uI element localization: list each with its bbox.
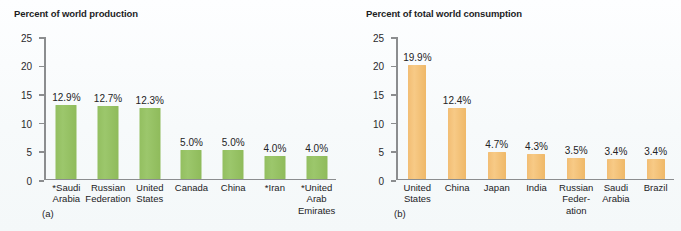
bar bbox=[306, 156, 327, 179]
y-tick-b-5: 5 bbox=[391, 151, 396, 153]
x-category-label: China bbox=[445, 182, 470, 193]
bar-value-label: 3.4% bbox=[605, 146, 628, 157]
bar bbox=[264, 156, 285, 179]
bar-value-label: 3.4% bbox=[644, 146, 667, 157]
x-category-label: Japan bbox=[484, 182, 510, 193]
bar-group: 3.5%Russian Feder- ation bbox=[556, 37, 596, 179]
x-category-label: *United Arab Emirates bbox=[298, 182, 335, 216]
bar-group: 5.0%Canada bbox=[171, 37, 213, 179]
y-tick-b-15: 15 bbox=[391, 94, 396, 96]
y-tick-label-b-0: 0 bbox=[378, 175, 384, 186]
bar-group: 4.0%*Iran bbox=[254, 37, 296, 179]
y-tick-label-b-10: 10 bbox=[373, 118, 384, 129]
y-tick-label-a-25: 25 bbox=[21, 32, 32, 43]
y-tick-a-25: 25 bbox=[39, 37, 44, 39]
x-category-label: India bbox=[526, 182, 547, 193]
x-category-label: United States bbox=[404, 182, 431, 205]
y-tick-b-10: 10 bbox=[391, 123, 396, 125]
bar-value-label: 12.7% bbox=[94, 93, 122, 104]
bar-value-label: 4.0% bbox=[264, 143, 287, 154]
figure-canvas: Percent of world production 0510152025 1… bbox=[0, 0, 681, 231]
y-tick-label-a-15: 15 bbox=[21, 89, 32, 100]
x-category-label: *Saudi Arabia bbox=[52, 182, 80, 205]
bar bbox=[408, 65, 426, 179]
bar-series-b: 19.9%United States12.4%China4.7%Japan4.3… bbox=[398, 37, 675, 179]
bar bbox=[488, 152, 506, 179]
bar-value-label: 12.4% bbox=[443, 95, 471, 106]
y-tick-label-b-5: 5 bbox=[378, 147, 384, 158]
x-axis-line-b bbox=[396, 179, 674, 181]
plot-area-a: 0510152025 12.9%*Saudi Arabia12.7%Russia… bbox=[44, 37, 336, 180]
bar-value-label: 12.3% bbox=[136, 95, 164, 106]
bar-group: 4.0%*United Arab Emirates bbox=[296, 37, 338, 179]
x-axis-line-a bbox=[44, 179, 336, 181]
panel-caption-b: (b) bbox=[394, 208, 406, 219]
x-category-label: Saudi Arabia bbox=[602, 182, 629, 205]
y-tick-b-0: 0 bbox=[391, 180, 396, 182]
y-tick-label-a-0: 0 bbox=[26, 175, 32, 186]
bar-group: 12.3%United States bbox=[129, 37, 171, 179]
bar-group: 3.4%Saudi Arabia bbox=[596, 37, 636, 179]
bar-group: 5.0%China bbox=[212, 37, 254, 179]
y-tick-b-25: 25 bbox=[391, 37, 396, 39]
y-tick-label-a-10: 10 bbox=[21, 118, 32, 129]
y-tick-a-0: 0 bbox=[39, 180, 44, 182]
bar bbox=[567, 158, 585, 178]
y-tick-label-a-5: 5 bbox=[26, 147, 32, 158]
y-tick-label-b-15: 15 bbox=[373, 89, 384, 100]
y-tick-b-20: 20 bbox=[391, 66, 396, 68]
bar-group: 12.4%China bbox=[437, 37, 477, 179]
x-category-label: China bbox=[221, 182, 246, 193]
bar-group: 12.7%Russian Federation bbox=[87, 37, 129, 179]
x-category-label: Canada bbox=[175, 182, 208, 193]
y-tick-a-5: 5 bbox=[39, 151, 44, 153]
x-category-label: United States bbox=[136, 182, 163, 205]
bar-value-label: 3.5% bbox=[565, 145, 588, 156]
bar bbox=[56, 105, 77, 179]
chart-panel-b: Percent of total world consumption 05101… bbox=[340, 0, 681, 231]
bar-value-label: 4.0% bbox=[305, 143, 328, 154]
bar bbox=[223, 150, 244, 179]
bar-value-label: 12.9% bbox=[52, 92, 80, 103]
y-tick-a-15: 15 bbox=[39, 94, 44, 96]
x-category-label: Russian Feder- ation bbox=[559, 182, 593, 216]
bar-group: 4.3%India bbox=[517, 37, 557, 179]
bar-value-label: 19.9% bbox=[403, 52, 431, 63]
bar bbox=[607, 159, 625, 178]
bar-group: 3.4%Brazil bbox=[636, 37, 676, 179]
chart-title-a: Percent of world production bbox=[14, 8, 138, 19]
bar-value-label: 5.0% bbox=[222, 137, 245, 148]
bar-group: 19.9%United States bbox=[398, 37, 438, 179]
bar-value-label: 4.7% bbox=[485, 139, 508, 150]
plot-area-b: 0510152025 19.9%United States12.4%China4… bbox=[396, 37, 674, 180]
bar bbox=[448, 108, 466, 179]
bar bbox=[527, 154, 545, 179]
y-tick-a-10: 10 bbox=[39, 123, 44, 125]
panel-caption-a: (a) bbox=[42, 208, 54, 219]
bar bbox=[181, 150, 202, 179]
bar-value-label: 4.3% bbox=[525, 141, 548, 152]
bar-series-a: 12.9%*Saudi Arabia12.7%Russian Federatio… bbox=[46, 37, 337, 179]
y-tick-a-20: 20 bbox=[39, 66, 44, 68]
y-tick-label-a-20: 20 bbox=[21, 61, 32, 72]
bar bbox=[139, 108, 160, 178]
bar-value-label: 5.0% bbox=[180, 137, 203, 148]
bar bbox=[647, 159, 665, 178]
chart-title-b: Percent of total world consumption bbox=[366, 8, 522, 19]
x-category-label: Brazil bbox=[644, 182, 668, 193]
bar-group: 12.9%*Saudi Arabia bbox=[46, 37, 88, 179]
bar bbox=[98, 106, 119, 179]
chart-panel-a: Percent of world production 0510152025 1… bbox=[0, 0, 341, 231]
y-tick-label-b-25: 25 bbox=[373, 32, 384, 43]
bar-group: 4.7%Japan bbox=[477, 37, 517, 179]
y-tick-label-b-20: 20 bbox=[373, 61, 384, 72]
x-category-label: *Iran bbox=[265, 182, 285, 193]
x-category-label: Russian Federation bbox=[85, 182, 130, 205]
